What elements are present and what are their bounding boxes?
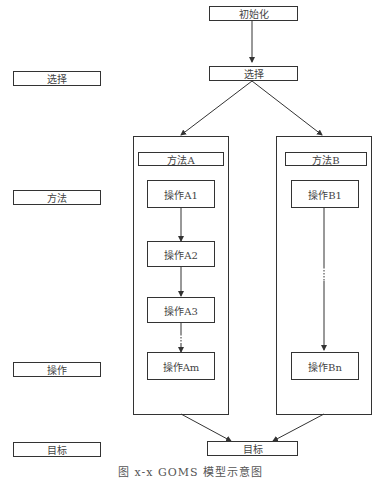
op-bn-text: 操作Bn	[308, 359, 342, 374]
op-am: 操作Am	[147, 352, 215, 380]
op-a2: 操作A2	[147, 241, 215, 267]
op-a1-text: 操作A1	[164, 187, 198, 202]
select-node-text: 选择	[244, 66, 264, 81]
level-label-method: 方法	[13, 190, 101, 205]
op-b1-text: 操作B1	[308, 187, 342, 202]
target-node: 目标	[207, 441, 298, 456]
init-node: 初始化	[209, 6, 298, 21]
method-b-title-text: 方法B	[312, 152, 339, 167]
level-label-operation-text: 操作	[47, 362, 67, 377]
target-node-text: 目标	[243, 441, 263, 456]
level-label-target-text: 目标	[47, 442, 67, 457]
level-label-select: 选择	[13, 71, 101, 86]
method-a-title-text: 方法A	[167, 152, 194, 167]
init-node-text: 初始化	[239, 6, 269, 21]
op-b1: 操作B1	[291, 180, 359, 208]
method-a-title: 方法A	[138, 152, 224, 166]
op-bn: 操作Bn	[291, 352, 359, 380]
op-am-text: 操作Am	[163, 359, 200, 374]
op-a3: 操作A3	[147, 297, 215, 323]
level-label-operation: 操作	[13, 362, 101, 377]
select-node: 选择	[209, 66, 298, 81]
op-a2-text: 操作A2	[164, 247, 198, 262]
level-label-method-text: 方法	[47, 190, 67, 205]
level-label-target: 目标	[13, 442, 101, 457]
method-b-title: 方法B	[285, 152, 367, 166]
figure-caption: 图 x-x GOMS 模型示意图	[0, 463, 381, 479]
op-a1: 操作A1	[147, 180, 215, 208]
level-label-select-text: 选择	[47, 71, 67, 86]
op-a3-text: 操作A3	[164, 303, 198, 318]
